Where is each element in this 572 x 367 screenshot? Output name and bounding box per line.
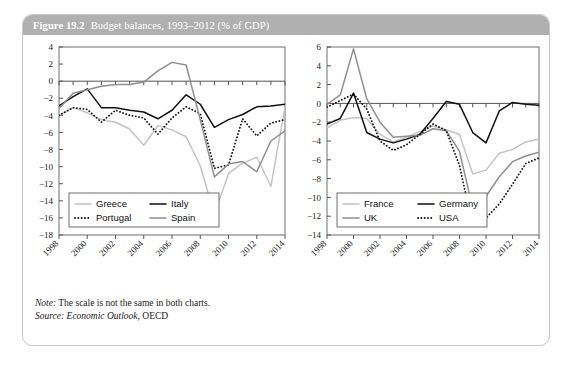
figure-card: Figure 19.2 Budget balances, 1993–2012 (…: [22, 14, 550, 346]
source-label: Source:: [35, 311, 64, 321]
x-tick-label: 2006: [154, 238, 174, 258]
y-tick-label: −8: [43, 145, 53, 155]
legend: GreeceItalyPortugalSpain: [69, 193, 219, 227]
x-tick-label: 2000: [69, 238, 89, 258]
y-tick-label: −8: [311, 174, 321, 184]
series-group: [59, 62, 285, 214]
x-tick-label: 1998: [309, 238, 329, 258]
x-tick-label: 2010: [210, 238, 230, 258]
x-tick-label: 1998: [41, 238, 61, 258]
x-tick-label: 2004: [125, 238, 145, 258]
y-tick-label: −14: [307, 230, 322, 240]
y-tick-label: 6: [317, 42, 322, 52]
note-text: The scale is not the same in both charts…: [56, 298, 210, 308]
legend-label-uk: UK: [364, 212, 378, 223]
legend: FranceGermanyUKUSA: [337, 193, 487, 227]
x-tick-label: 2014: [267, 238, 287, 258]
y-tick-label: −10: [307, 193, 322, 203]
x-tick-label: 2014: [521, 238, 541, 258]
y-tick-label: 0: [317, 99, 322, 109]
x-tick-label: 2000: [335, 238, 355, 258]
series-line-italy: [59, 89, 285, 127]
series-line-france: [327, 118, 539, 174]
legend-label-spain: Spain: [171, 212, 195, 223]
source-title: Economic Outlook: [64, 311, 137, 321]
source-publisher: , OECD: [138, 311, 169, 321]
legend-label-italy: Italy: [171, 198, 189, 209]
x-tick-label: 2002: [97, 238, 117, 258]
x-tick-label: 2004: [388, 238, 408, 258]
y-tick-label: −12: [39, 179, 53, 189]
x-tick-label: 2002: [362, 238, 382, 258]
y-tick-label: 4: [49, 42, 54, 52]
y-tick-label: −10: [39, 162, 54, 172]
y-tick-label: −16: [39, 213, 54, 223]
legend-label-france: France: [364, 198, 394, 209]
x-tick-label: 2008: [182, 238, 202, 258]
x-tick-label: 2010: [468, 238, 488, 258]
y-tick-label: −2: [311, 117, 321, 127]
y-tick-label: −4: [311, 136, 321, 146]
x-tick-label: 2012: [238, 238, 258, 258]
y-tick-label: 4: [317, 61, 322, 71]
chart-svg-left: 420−2−4−6−8−10−12−14−16−1819982000200220…: [23, 35, 295, 287]
source-line: Source: Economic Outlook, OECD: [35, 310, 210, 323]
figure-caption: Budget balances, 1993–2012 (% of GDP): [91, 20, 270, 31]
figure-header: Figure 19.2 Budget balances, 1993–2012 (…: [23, 15, 549, 35]
y-tick-label: 2: [49, 59, 54, 69]
y-tick-label: −18: [39, 230, 54, 240]
y-tick-label: −12: [307, 211, 321, 221]
x-tick-label: 2006: [415, 238, 435, 258]
figure-notes: Note: The scale is not the same in both …: [35, 297, 210, 322]
series-line-uk: [327, 49, 539, 209]
y-tick-label: −6: [43, 128, 53, 138]
legend-label-usa: USA: [439, 212, 459, 223]
note-line: Note: The scale is not the same in both …: [35, 297, 210, 310]
note-label: Note:: [35, 298, 56, 308]
y-tick-label: −2: [43, 93, 53, 103]
x-tick-label: 2012: [494, 238, 514, 258]
chart-right-panel: 6420−2−4−6−8−10−12−141998200020022004200…: [291, 35, 549, 287]
y-tick-label: 0: [49, 76, 54, 86]
legend-label-portugal: Portugal: [96, 212, 131, 223]
y-tick-label: −6: [311, 155, 321, 165]
x-tick-label: 2008: [441, 238, 461, 258]
charts-row: 420−2−4−6−8−10−12−14−16−1819982000200220…: [23, 35, 549, 287]
chart-svg-right: 6420−2−4−6−8−10−12−141998200020022004200…: [291, 35, 549, 287]
legend-label-greece: Greece: [96, 198, 127, 209]
y-tick-label: 2: [317, 80, 322, 90]
legend-label-germany: Germany: [439, 198, 478, 209]
figure-number: Figure 19.2: [33, 20, 85, 31]
chart-left-panel: 420−2−4−6−8−10−12−14−16−1819982000200220…: [23, 35, 295, 287]
y-tick-label: −4: [43, 111, 53, 121]
y-tick-label: −14: [39, 196, 54, 206]
